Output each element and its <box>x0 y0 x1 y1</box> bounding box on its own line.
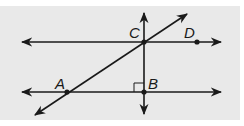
geometry-figure: A B C D <box>0 0 244 126</box>
figure-background <box>0 6 240 120</box>
label-b: B <box>148 75 158 92</box>
point-a <box>64 89 69 94</box>
point-d <box>194 39 199 44</box>
point-c <box>141 39 146 44</box>
label-c: C <box>129 24 140 41</box>
label-a: A <box>54 75 65 92</box>
label-d: D <box>184 24 195 41</box>
point-b <box>141 89 146 94</box>
